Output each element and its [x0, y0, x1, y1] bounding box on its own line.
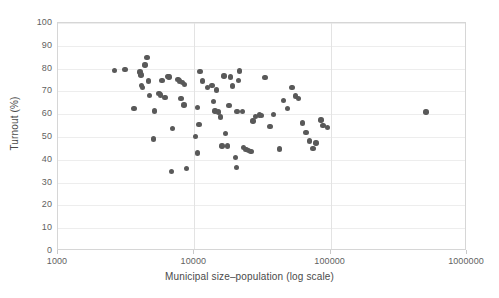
data-point	[170, 126, 175, 131]
data-point	[271, 112, 276, 117]
data-point	[178, 96, 183, 101]
data-point	[313, 140, 318, 145]
gridline-horizontal	[58, 46, 465, 47]
data-point	[226, 103, 231, 108]
x-tick-label: 10000	[181, 256, 207, 266]
data-point	[289, 85, 294, 90]
gridline-horizontal	[58, 69, 465, 70]
data-point	[151, 136, 156, 141]
x-tick-mark	[57, 250, 58, 254]
data-point	[200, 78, 205, 83]
data-point	[195, 105, 200, 110]
y-tick-label: 10	[4, 223, 52, 232]
data-point	[267, 124, 272, 129]
data-point	[131, 106, 136, 111]
data-point	[300, 120, 305, 125]
x-tick-label: 1000	[47, 256, 67, 266]
data-point	[152, 108, 157, 113]
data-point	[195, 150, 200, 155]
y-tick-label: 100	[4, 18, 52, 27]
data-point	[281, 98, 286, 103]
data-point	[225, 143, 230, 148]
gridline-horizontal	[58, 137, 465, 138]
data-point	[196, 122, 201, 127]
data-point	[112, 68, 117, 73]
x-tick-label: 1000000	[448, 256, 484, 266]
gridline-horizontal	[58, 91, 465, 92]
data-point	[184, 166, 189, 171]
data-point	[144, 55, 149, 60]
gridline-horizontal	[58, 205, 465, 206]
y-tick-label: 80	[4, 64, 52, 73]
data-point	[325, 125, 330, 130]
data-point	[162, 95, 167, 100]
gridline-horizontal	[58, 160, 465, 161]
scatter-chart: 0102030405060708090100 10001000010000010…	[0, 0, 499, 298]
data-point	[169, 169, 174, 174]
data-point	[234, 109, 239, 114]
data-point	[146, 78, 151, 83]
data-point	[303, 130, 308, 135]
data-point	[181, 102, 186, 107]
data-point	[248, 149, 253, 154]
x-tick-mark	[330, 250, 331, 254]
gridline-horizontal	[58, 228, 465, 229]
data-point	[223, 131, 228, 136]
data-point	[277, 146, 282, 151]
data-point	[122, 67, 127, 72]
data-point	[262, 75, 267, 80]
y-tick-label: 30	[4, 178, 52, 187]
data-point	[182, 82, 187, 87]
data-point	[193, 134, 198, 139]
data-point	[140, 85, 145, 90]
data-point	[237, 68, 242, 73]
data-point	[236, 78, 241, 83]
data-point	[221, 73, 226, 78]
data-point	[159, 78, 164, 83]
data-point	[230, 83, 235, 88]
data-point	[307, 138, 312, 143]
y-tick-label: 90	[4, 41, 52, 50]
data-point	[259, 113, 264, 118]
x-tick-mark	[193, 250, 194, 254]
data-point	[285, 106, 290, 111]
x-axis-title: Municipal size–population (log scale)	[0, 271, 499, 282]
data-point	[142, 62, 147, 67]
gridline-vertical	[331, 23, 332, 249]
plot-area	[57, 22, 466, 250]
x-tick-label: 100000	[314, 256, 345, 266]
data-point	[250, 118, 255, 123]
data-point	[318, 117, 323, 122]
gridline-horizontal	[58, 23, 465, 24]
x-tick-mark	[466, 250, 467, 254]
data-point	[214, 87, 219, 92]
gridline-horizontal	[58, 183, 465, 184]
data-point	[296, 96, 301, 101]
data-point	[197, 69, 202, 74]
data-point	[138, 72, 143, 77]
data-point	[147, 93, 152, 98]
data-point	[211, 99, 216, 104]
data-point	[423, 109, 428, 114]
data-point	[166, 74, 171, 79]
data-point	[234, 165, 239, 170]
x-axis-ticks: 1000100001000001000000	[0, 254, 499, 268]
data-point	[218, 114, 223, 119]
y-tick-label: 20	[4, 200, 52, 209]
y-axis-title: Turnout (%)	[9, 74, 20, 174]
data-point	[228, 74, 233, 79]
data-point	[310, 146, 315, 151]
